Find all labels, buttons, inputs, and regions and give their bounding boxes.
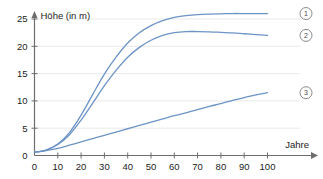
y-tick-label: 25 — [17, 13, 28, 24]
x-tick-label: 0 — [32, 161, 37, 172]
curve-3 — [35, 93, 268, 153]
y-axis-arrow — [32, 11, 38, 18]
x-axis-label: Jahre — [285, 139, 309, 150]
x-tick-label: 20 — [76, 161, 87, 172]
legend-number-1: 1 — [304, 10, 308, 17]
y-tick-label: 10 — [17, 95, 28, 106]
x-tick-label: 40 — [122, 161, 133, 172]
x-tick-label: 80 — [216, 161, 227, 172]
y-tick-label: 20 — [17, 41, 28, 52]
legend-number-3: 3 — [304, 89, 308, 96]
data-curves — [35, 14, 268, 153]
legend-number-2: 2 — [304, 32, 308, 39]
line-chart: 0510152025 0102030405060708090100 123 Hö… — [0, 0, 323, 179]
cropped-header-text — [0, 0, 323, 6]
y-axis-label: Höhe (in m) — [41, 10, 91, 21]
x-tick-label: 30 — [99, 161, 110, 172]
y-tick-label: 5 — [22, 123, 27, 134]
x-tick-label: 100 — [260, 161, 276, 172]
x-axis-arrow — [311, 152, 318, 159]
chart-container: 0510152025 0102030405060708090100 123 Hö… — [0, 0, 323, 179]
curve-2 — [35, 31, 268, 152]
y-tick-label: 0 — [22, 150, 27, 161]
x-tick-label: 60 — [169, 161, 180, 172]
x-tick-label: 90 — [239, 161, 250, 172]
x-tick-label: 70 — [192, 161, 203, 172]
curve-1 — [35, 14, 268, 153]
x-tick-label: 10 — [53, 161, 64, 172]
legend-markers: 123 — [300, 8, 312, 99]
y-tick-label: 15 — [17, 68, 28, 79]
x-tick-label: 50 — [146, 161, 157, 172]
